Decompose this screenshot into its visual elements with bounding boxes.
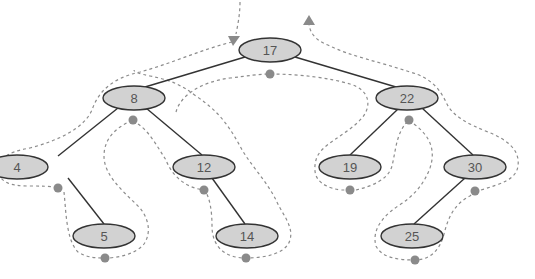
tree-edges bbox=[58, 57, 473, 224]
visit-dot-25 bbox=[411, 256, 420, 265]
visit-dot-4 bbox=[54, 184, 63, 193]
edge-17-22 bbox=[295, 57, 396, 87]
tour-end-arrow-icon bbox=[303, 15, 315, 25]
node-label: 30 bbox=[468, 160, 482, 175]
tree-node-12: 12 bbox=[173, 155, 235, 179]
tour-start-arrow-icon bbox=[228, 36, 240, 46]
edge-12-14 bbox=[212, 178, 245, 224]
tree-node-14: 14 bbox=[216, 224, 278, 248]
visit-dot-14 bbox=[242, 254, 251, 263]
visit-dot-12 bbox=[200, 186, 209, 195]
node-label: 19 bbox=[343, 160, 357, 175]
visit-dot-30 bbox=[471, 187, 480, 196]
edge-30-25 bbox=[414, 178, 465, 224]
tree-node-22: 22 bbox=[376, 86, 438, 110]
edge-22-19 bbox=[350, 109, 398, 155]
node-label: 12 bbox=[197, 160, 211, 175]
node-label: 25 bbox=[405, 229, 419, 244]
node-label: 8 bbox=[130, 91, 137, 106]
edge-22-30 bbox=[422, 108, 473, 155]
edge-8-4 bbox=[58, 108, 118, 156]
tree-node-4: 4 bbox=[0, 155, 48, 179]
edge-8-12 bbox=[146, 108, 202, 155]
node-label: 22 bbox=[400, 91, 414, 106]
tree-node-17: 17 bbox=[239, 38, 301, 62]
visit-dot-19 bbox=[346, 186, 355, 195]
visit-dot-22 bbox=[405, 116, 414, 125]
tree-node-19: 19 bbox=[319, 155, 381, 179]
tree-node-25: 25 bbox=[381, 224, 443, 248]
tree-node-30: 30 bbox=[444, 155, 506, 179]
visit-dot-5 bbox=[101, 254, 110, 263]
tree-node-5: 5 bbox=[73, 224, 135, 248]
node-label: 17 bbox=[263, 43, 277, 58]
node-label: 5 bbox=[100, 229, 107, 244]
edge-4-5 bbox=[68, 178, 104, 224]
node-label: 14 bbox=[240, 229, 254, 244]
node-label: 4 bbox=[13, 160, 20, 175]
tree-node-8: 8 bbox=[103, 86, 165, 110]
visit-dot-17 bbox=[266, 70, 275, 79]
tree-diagram: 17 8 22 4 12 19 30 5 14 25 bbox=[0, 0, 535, 279]
visit-dot-8 bbox=[129, 116, 138, 125]
edge-17-8 bbox=[145, 57, 245, 87]
